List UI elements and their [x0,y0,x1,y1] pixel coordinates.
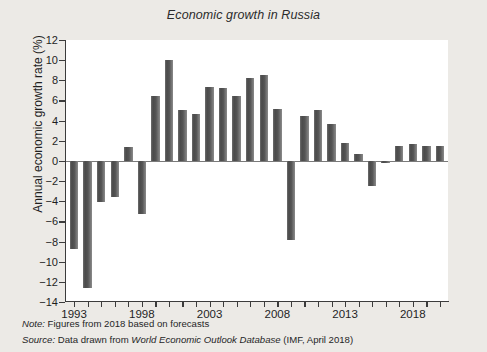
bar-1996 [111,161,119,197]
figure-notes: Note: Figures from 2018 based on forecas… [22,318,462,350]
y-tick-label--14: −14 [18,296,58,308]
bar-2013 [341,143,349,161]
source-line: Source: Data drawn from World Economic O… [22,334,462,345]
y-tick-label--12: −12 [18,276,58,288]
x-tick-1999 [155,302,156,307]
bar-1994 [83,161,91,288]
y-tick--12 [59,282,65,283]
y-axis-line [65,40,66,302]
y-tick-8 [59,80,65,81]
x-tick-1997 [128,302,129,307]
source-text-after: (IMF, April 2018) [281,334,354,345]
bar-2012 [327,124,335,161]
x-tick-2009 [291,302,292,307]
y-tick-6 [59,100,65,101]
y-tick--2 [59,181,65,182]
bar-2008 [273,109,281,161]
y-tick-2 [59,141,65,142]
x-tick-2016 [386,302,387,307]
x-tick-1994 [88,302,89,307]
bar-2011 [314,110,322,161]
x-tick-2006 [250,302,251,307]
x-tick-1995 [101,302,102,307]
x-tick-2017 [399,302,400,307]
x-tick-2019 [426,302,427,307]
note-text: Figures from 2018 based on forecasts [45,318,209,329]
bar-2017 [395,146,403,161]
x-tick-2018 [413,302,414,307]
x-tick-2010 [304,302,305,307]
y-tick-label--10: −10 [18,256,58,268]
x-tick-2000 [169,302,170,307]
bar-2015 [368,161,376,186]
bar-2005 [232,96,240,160]
bar-2009 [287,161,295,240]
y-axis-title: Annual economic growth rate (%) [31,9,45,239]
x-tick-2014 [359,302,360,307]
plot-area-wrapper [66,40,448,302]
x-tick-2002 [196,302,197,307]
x-tick-2013 [345,302,346,307]
bar-1999 [151,96,159,160]
chart-figure: Economic growth in Russia 121086420−2−4−… [0,0,487,352]
bar-2016 [381,161,389,163]
y-tick-0 [59,161,65,162]
bar-2004 [219,88,227,161]
bar-2003 [205,87,213,161]
bar-1993 [70,161,78,249]
bar-2007 [260,75,268,161]
bar-2014 [354,154,362,161]
bar-1998 [138,161,146,214]
y-tick-4 [59,121,65,122]
note-line: Note: Figures from 2018 based on forecas… [22,318,462,329]
chart-title: Economic growth in Russia [0,8,487,22]
bar-1997 [124,147,132,161]
y-tick--8 [59,242,65,243]
x-tick-2001 [182,302,183,307]
bar-2006 [246,78,254,161]
y-tick-12 [59,40,65,41]
note-label: Note: [22,318,45,329]
bar-2002 [192,114,200,161]
x-tick-2008 [277,302,278,307]
y-tick-10 [59,60,65,61]
y-tick--6 [59,221,65,222]
x-tick-1998 [142,302,143,307]
source-label: Source: [22,334,55,345]
source-database-name: World Economic Outlook Database [131,334,280,345]
bar-1995 [97,161,105,202]
bar-2000 [165,60,173,161]
bars-layer [66,40,448,302]
y-tick--4 [59,201,65,202]
x-tick-2012 [332,302,333,307]
bar-2020 [436,146,444,161]
y-tick--10 [59,262,65,263]
x-tick-2007 [264,302,265,307]
x-tick-1993 [74,302,75,307]
x-tick-2005 [237,302,238,307]
x-axis-line [65,301,449,302]
x-tick-2003 [210,302,211,307]
bar-2001 [178,110,186,161]
x-tick-2015 [372,302,373,307]
bar-2010 [300,116,308,161]
bar-2019 [422,146,430,161]
bar-2018 [409,144,417,161]
x-tick-2020 [440,302,441,307]
x-tick-2004 [223,302,224,307]
x-tick-2011 [318,302,319,307]
x-tick-1996 [115,302,116,307]
source-text-before: Data drawn from [55,334,131,345]
y-tick--14 [59,302,65,303]
